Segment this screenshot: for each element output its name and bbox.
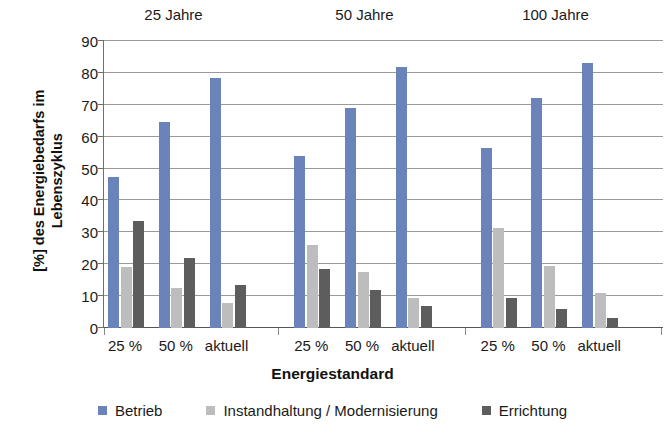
plot-area [103,41,663,328]
bar-0-1-0 [159,122,170,328]
legend-item-0[interactable]: Betrieb [98,402,163,419]
y-tick-label-30: 30 [52,224,98,241]
y-tickmark-30 [98,231,104,232]
bar-1-2-1 [408,298,419,328]
y-tickmark-50 [98,168,104,169]
bar-1-2-2 [421,306,432,328]
bar-2-0-2 [506,298,517,328]
y-tick-label-80: 80 [52,64,98,81]
legend-swatch-icon-1 [206,406,215,415]
bar-0-0-1 [121,267,132,328]
y-tickmark-80 [98,72,104,73]
bar-2-1-1 [544,266,555,328]
x-group-separator-1 [278,328,279,335]
gridline-90 [104,40,663,41]
bar-1-0-1 [307,245,318,328]
y-tick-label-40: 40 [52,192,98,209]
bar-0-2-1 [222,303,233,329]
x-axis-title: Energiestandard [0,365,665,383]
y-axis-ticks: 0102030405060708090 [48,0,98,427]
y-tick-label-20: 20 [52,256,98,273]
bar-2-0-1 [493,228,504,328]
y-tick-label-0: 0 [52,320,98,337]
bar-0-0-0 [108,177,119,328]
chart-legend: BetriebInstandhaltung / ModernisierungEr… [0,398,665,422]
legend-swatch-icon-2 [482,406,491,415]
x-tick-label-1-2: aktuell [378,337,448,354]
y-tickmark-20 [98,263,104,264]
y-tick-label-60: 60 [52,128,98,145]
legend-label-0: Betrieb [115,402,163,419]
bar-2-1-0 [531,98,542,328]
x-group-separator-2 [465,328,466,335]
bar-1-1-2 [370,290,381,328]
bar-2-2-0 [582,63,593,328]
x-group-separator-start [104,328,105,335]
bar-1-1-1 [358,272,369,328]
bar-2-2-2 [607,318,618,328]
y-tickmark-40 [98,199,104,200]
y-tickmark-60 [98,136,104,137]
bar-0-0-2 [133,221,144,328]
bar-0-2-0 [210,78,221,328]
gridline-30 [104,231,663,232]
y-tickmark-10 [98,295,104,296]
x-tick-label-2-2: aktuell [564,337,634,354]
bar-0-2-2 [235,285,246,328]
gridline-50 [104,168,663,169]
gridline-80 [104,72,663,73]
bar-2-0-0 [481,148,492,328]
gridline-60 [104,136,663,137]
group-title-1: 50 Jahre [298,6,431,23]
legend-item-2[interactable]: Errichtung [482,402,567,419]
gridline-40 [104,199,663,200]
bar-0-1-2 [184,258,195,328]
legend-label-2: Errichtung [499,402,567,419]
y-tick-label-10: 10 [52,288,98,305]
bar-chart: 25 Jahre 50 Jahre 100 Jahre [%] des Ener… [0,0,665,427]
bar-1-2-0 [396,67,407,328]
y-tick-label-70: 70 [52,96,98,113]
bar-1-1-0 [345,108,356,328]
y-tick-label-50: 50 [52,160,98,177]
bar-0-1-1 [171,288,182,328]
bar-2-1-2 [556,309,567,328]
group-title-0: 25 Jahre [107,6,240,23]
y-tickmark-90 [98,40,104,41]
bar-1-0-0 [294,156,305,328]
y-tick-label-90: 90 [52,33,98,50]
y-axis-title-line-1: [%] des Energiebedarfs im [31,90,47,272]
x-group-separator-end [661,328,662,335]
legend-label-1: Instandhaltung / Modernisierung [223,402,437,419]
x-tick-label-0-2: aktuell [192,337,262,354]
y-tickmark-70 [98,104,104,105]
legend-swatch-icon-0 [98,406,107,415]
bar-2-2-1 [595,293,606,328]
legend-item-1[interactable]: Instandhaltung / Modernisierung [206,402,437,419]
gridline-70 [104,104,663,105]
group-title-2: 100 Jahre [489,6,622,23]
bar-1-0-2 [319,269,330,328]
